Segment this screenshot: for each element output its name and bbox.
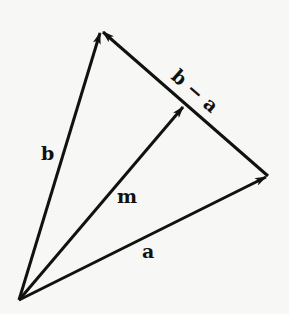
diagram-svg: b m a b − a <box>0 0 289 314</box>
vector-m-line <box>19 107 183 300</box>
label-b-minus-a: b − a <box>167 64 223 117</box>
label-a: a <box>142 240 154 262</box>
vector-b-line <box>19 33 100 300</box>
label-b: b <box>41 142 54 164</box>
label-m: m <box>117 185 137 207</box>
vector-diagram: b m a b − a <box>0 0 289 314</box>
vector-a-line <box>19 177 266 300</box>
vector-b-minus-a-line <box>103 32 268 176</box>
